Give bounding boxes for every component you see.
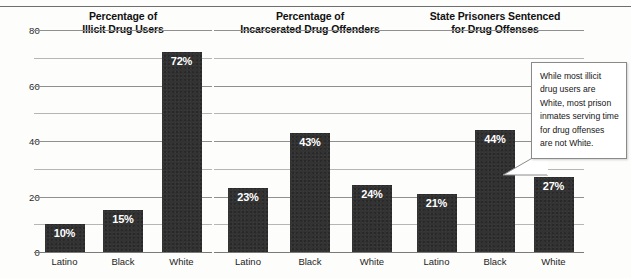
- bar-group: 23%43%24%: [214, 30, 406, 252]
- category-label-black: Black: [282, 256, 338, 267]
- bar-white[interactable]: 27%: [534, 177, 574, 252]
- bar-value-label: 21%: [417, 197, 457, 209]
- panel-title-line-1: Percentage of: [214, 10, 406, 23]
- bar-white[interactable]: 72%: [162, 52, 202, 252]
- panel-title-line-1: Percentage of: [34, 10, 212, 23]
- bar-value-label: 72%: [162, 55, 202, 67]
- bar-value-label: 10%: [45, 227, 85, 239]
- gridline-0: [214, 252, 406, 253]
- figure-top-rule: [0, 6, 631, 7]
- category-label-latino: Latino: [220, 256, 276, 267]
- bar-value-label: 24%: [352, 188, 392, 200]
- bar-white[interactable]: 24%: [352, 185, 392, 252]
- figure-bar-chart-triptych: 806040200 Percentage ofIllicit Drug User…: [0, 0, 631, 278]
- bar-value-label: 23%: [228, 191, 268, 203]
- gridline-0: [34, 252, 212, 253]
- plot-area: LatinoBlackWhite10%15%72%: [34, 30, 212, 252]
- chart-panel-incarcerated-drug-offenders: Percentage ofIncarcerated Drug Offenders…: [214, 10, 406, 278]
- category-label-white: White: [344, 256, 400, 267]
- category-label-latino: Latino: [409, 256, 465, 267]
- bar-black[interactable]: 15%: [103, 210, 143, 252]
- bar-group: 10%15%72%: [34, 30, 212, 252]
- callout-text: While most illicit drug users are White,…: [540, 71, 619, 148]
- category-label-latino: Latino: [37, 256, 93, 267]
- bar-value-label: 43%: [290, 136, 330, 148]
- bar-latino[interactable]: 10%: [45, 224, 85, 252]
- bar-black[interactable]: 43%: [290, 133, 330, 252]
- bar-latino[interactable]: 23%: [228, 188, 268, 252]
- bar-latino[interactable]: 21%: [417, 194, 457, 252]
- callout-box: While most illicit drug users are White,…: [531, 62, 627, 159]
- panel-title-line-1: State Prisoners Sentenced: [406, 10, 584, 23]
- category-label-black: Black: [467, 256, 523, 267]
- chart-panel-illicit-drug-users: Percentage ofIllicit Drug UsersLatinoBla…: [34, 10, 212, 278]
- bar-value-label: 44%: [475, 133, 515, 145]
- category-label-black: Black: [95, 256, 151, 267]
- plot-area: LatinoBlackWhite23%43%24%: [214, 30, 406, 252]
- gridline-0: [406, 252, 584, 253]
- bar-value-label: 27%: [534, 180, 574, 192]
- category-label-white: White: [154, 256, 210, 267]
- category-label-white: White: [526, 256, 582, 267]
- bar-value-label: 15%: [103, 213, 143, 225]
